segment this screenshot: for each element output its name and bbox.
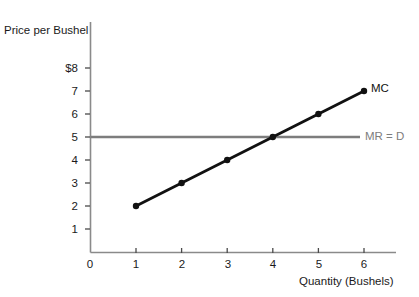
data-point-4-5 — [270, 134, 276, 140]
data-point-3-4 — [224, 157, 230, 163]
data-point-2-3 — [178, 180, 184, 186]
data-point-1-2 — [133, 203, 139, 209]
data-point-5-6 — [315, 111, 321, 117]
marginal-cost-line — [136, 91, 364, 206]
data-point-6-7 — [361, 88, 367, 94]
plot-area — [0, 0, 419, 297]
y-axis-ticks — [85, 68, 90, 229]
chart-container: Price per Bushel Quantity (Bushels) $8 7… — [0, 0, 419, 297]
